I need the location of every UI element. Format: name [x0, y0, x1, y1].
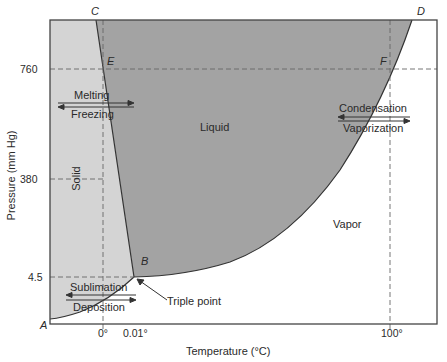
point-f-label: F: [380, 56, 387, 67]
x-tick-0: 0°: [98, 328, 108, 339]
condensation-label: Condensation: [339, 103, 407, 114]
deposition-label: Deposition: [73, 302, 125, 313]
vaporization-label: Vaporization: [343, 123, 403, 134]
x-tick-100: 100°: [381, 328, 403, 339]
point-d-label: D: [417, 6, 425, 17]
y-tick-760: 760: [20, 64, 38, 75]
point-c-label: C: [91, 6, 99, 17]
y-tick-4-5: 4.5: [28, 272, 43, 283]
x-axis-title: Temperature (°C): [186, 346, 270, 357]
region-vapor-label: Vapor: [333, 219, 362, 230]
sublimation-label: Sublimation: [70, 282, 127, 293]
x-tick-0-01: 0.01°: [123, 328, 148, 339]
region-solid-label: Solid: [71, 166, 82, 190]
point-a-label: A: [40, 320, 47, 331]
y-axis-title: Pressure (mm Hg): [6, 131, 17, 221]
triple-point-label: Triple point: [167, 296, 221, 307]
triple-point-pointer: [137, 279, 167, 300]
y-tick-380: 380: [20, 174, 38, 185]
liquid-region: [96, 20, 412, 277]
point-e-label: E: [107, 56, 114, 67]
freezing-label: Freezing: [71, 109, 114, 120]
point-b-label: B: [141, 256, 148, 267]
region-liquid-label: Liquid: [200, 122, 229, 133]
melting-label: Melting: [74, 90, 109, 101]
